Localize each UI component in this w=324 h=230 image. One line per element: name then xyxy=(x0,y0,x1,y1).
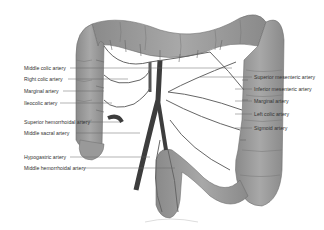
label-ileocolic-artery: Ileocolic artery xyxy=(24,100,57,106)
label-right-colic-artery: Right colic artery xyxy=(24,76,63,82)
label-inferior-mesenteric-artery: Inferior mesenteric artery xyxy=(254,86,312,92)
label-sigmoid-artery: Sigmoid artery xyxy=(254,125,287,131)
colon-illustration xyxy=(76,15,284,222)
label-marginal-artery-right: Marginal artery xyxy=(254,98,289,104)
label-middle-sacral-artery: Middle sacral artery xyxy=(24,130,69,136)
label-marginal-artery-left: Marginal artery xyxy=(24,88,59,94)
label-middle-colic-artery: Middle colic artery xyxy=(24,65,66,71)
label-hypogastric-artery: Hypogastric artery xyxy=(24,154,66,160)
label-superior-mesenteric-artery: Superior mesenteric artery xyxy=(254,74,315,80)
label-middle-hemorrhoidal-artery: Middle hemorrhoidal artery xyxy=(24,165,86,171)
label-superior-hemorrhoidal-artery: Superior hemorrhoidal artery xyxy=(24,119,90,125)
label-left-colic-artery: Left colic artery xyxy=(254,111,289,117)
